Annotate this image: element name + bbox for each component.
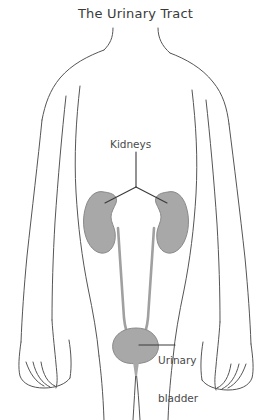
- left-arm-outer: [21, 120, 42, 342]
- gluteal-cleft: [133, 370, 136, 420]
- left-ureter: [118, 228, 130, 338]
- ureters: [118, 228, 154, 338]
- hip-left: [99, 356, 104, 420]
- right-kidney: [156, 192, 189, 254]
- urethra: [133, 362, 139, 376]
- left-hand-outer-edge: [69, 340, 71, 378]
- urinary-bladder-label: Urinary bladder: [158, 329, 198, 420]
- right-arm-outer: [229, 124, 251, 344]
- neck-right-curve: [158, 28, 170, 53]
- urinary-tract-diagram: The Urinary Tract: [0, 0, 271, 420]
- right-hand-thumb: [215, 322, 220, 390]
- urinary-bladder-label-line1: Urinary: [158, 354, 198, 367]
- gluteal-cleft-2: [136, 370, 140, 420]
- urinary-bladder-label-line2: bladder: [158, 392, 198, 405]
- right-ureter: [142, 228, 154, 338]
- urinary-bladder: [113, 328, 159, 364]
- left-kidney: [84, 192, 117, 254]
- right-arm-inner: [206, 100, 220, 322]
- left-arm-inner: [52, 96, 66, 320]
- kidneys: [84, 192, 189, 254]
- torso-left-shoulder: [42, 50, 104, 120]
- right-hand-outer-edge: [201, 342, 203, 380]
- torso-right-shoulder: [170, 53, 229, 124]
- neck-left-curve: [104, 28, 113, 50]
- left-hand-thumb: [52, 320, 57, 388]
- anatomy-illustration: [0, 0, 271, 420]
- kidneys-label: Kidneys: [110, 138, 151, 151]
- urinary-bladder-group: [113, 328, 159, 376]
